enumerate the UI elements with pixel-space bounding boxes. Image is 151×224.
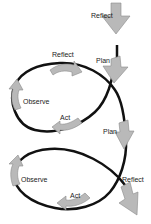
arrow-reflect-2 (119, 182, 138, 215)
action-research-spiral (0, 0, 151, 224)
label-plan-2: Plan (103, 128, 117, 135)
label-observe-2: Observe (21, 176, 47, 183)
label-act-1: Act (60, 114, 70, 121)
label-observe-1: Observe (23, 98, 49, 105)
label-reflect-top: Reflect (91, 12, 113, 19)
label-plan-1: Plan (96, 57, 110, 64)
arrow-plan-2 (115, 120, 134, 149)
label-reflect-1: Reflect (52, 51, 74, 58)
label-act-2: Act (70, 192, 80, 199)
label-reflect-2: Reflect (122, 176, 144, 183)
